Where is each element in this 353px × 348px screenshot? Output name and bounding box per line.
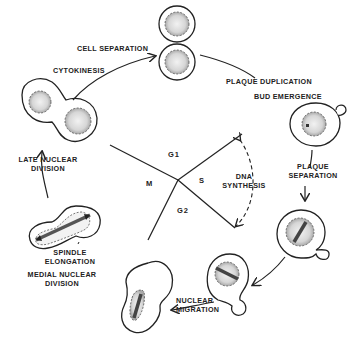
label-plaque-separation-line1: PLAQUE <box>288 162 338 171</box>
label-spindle-elongation: SPINDLE ELONGATION <box>40 248 100 266</box>
medial-division-cell <box>122 262 173 333</box>
label-late-line2: DIVISION <box>12 164 84 173</box>
label-cytokinesis: CYTOKINESIS <box>53 66 105 75</box>
label-bud-emergence: BUD EMERGENCE <box>254 92 322 101</box>
arrow-cytokinesis <box>73 56 155 100</box>
label-plaque-duplication: PLAQUE DUPLICATION <box>226 77 312 86</box>
label-spindle-line2: ELONGATION <box>40 257 100 266</box>
label-dna-line1: DNA <box>220 172 268 181</box>
label-nuclear-line1: NUCLEAR <box>170 296 219 305</box>
label-late-nuclear-division: LATE NUCLEAR DIVISION <box>12 155 84 173</box>
label-dna-synthesis: DNA SYNTHESIS <box>220 172 268 190</box>
bud-emergence-cell <box>290 103 346 146</box>
label-nuclear-migration: NUCLEAR MIGRATION <box>170 296 219 314</box>
label-cell-separation: CELL SEPARATION <box>77 44 148 53</box>
label-medial-nuclear-division: MEDIAL NUCLEAR DIVISION <box>22 270 102 288</box>
plaque-separation-cell <box>277 210 329 259</box>
phase-g2: G2 <box>177 206 189 215</box>
label-medial-line1: MEDIAL NUCLEAR <box>22 270 102 279</box>
phase-m: M <box>146 179 153 188</box>
spindle-elongation-cell <box>29 206 100 249</box>
label-spindle-line1: SPINDLE <box>40 248 100 257</box>
label-late-line1: LATE NUCLEAR <box>12 155 84 164</box>
separated-cells <box>159 6 195 80</box>
label-medial-line2: DIVISION <box>22 279 102 288</box>
label-migration-line2: MIGRATION <box>170 305 219 314</box>
label-plaque-separation-line2: SEPARATION <box>288 171 338 180</box>
phase-g1: G1 <box>168 150 180 159</box>
phase-s: S <box>199 176 205 185</box>
label-plaque-separation: PLAQUE SEPARATION <box>288 162 338 180</box>
label-dna-line2: SYNTHESIS <box>220 181 268 190</box>
